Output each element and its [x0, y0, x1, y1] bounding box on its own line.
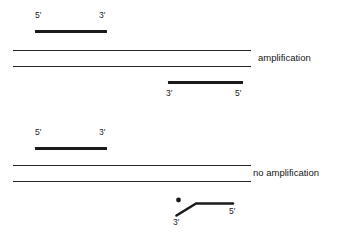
forward-primer-strand [35, 30, 107, 33]
forward-primer-3prime-label: 3′ [99, 11, 106, 20]
reverse-primer-5prime-label: 5′ [235, 89, 242, 98]
forward-primer-3prime-label: 3′ [99, 128, 106, 137]
outcome-label-no-amplification: no amplification [253, 167, 319, 178]
template-strand-top [13, 50, 251, 51]
panel-amplification: 5′ 3′ 3′ 5′ amplification [0, 0, 340, 115]
template-strand-top [13, 165, 251, 166]
reverse-primer-3prime-label: 3′ [173, 218, 180, 227]
template-strand-bottom [13, 66, 251, 67]
forward-primer-strand [35, 147, 107, 150]
outcome-label-amplification: amplification [258, 52, 311, 63]
reverse-primer-strand [168, 81, 243, 84]
mismatch-dot-icon [176, 198, 181, 203]
pcr-primer-mismatch-diagram: 5′ 3′ 3′ 5′ amplification 5′ 3′ 3′ 5′ n [0, 0, 340, 235]
template-strand-bottom [13, 181, 251, 182]
panel-no-amplification: 5′ 3′ 3′ 5′ no amplification [0, 117, 340, 235]
reverse-primer-5prime-label: 5′ [229, 207, 236, 216]
reverse-primer-3prime-label: 3′ [166, 89, 173, 98]
forward-primer-5prime-label: 5′ [35, 128, 42, 137]
mismatched-primer-path [177, 204, 234, 216]
forward-primer-5prime-label: 5′ [35, 11, 42, 20]
